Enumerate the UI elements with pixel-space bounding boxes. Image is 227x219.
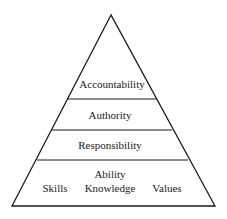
ability-component-skills: Skills (42, 182, 67, 194)
ability-component-values: Values (152, 182, 181, 194)
level-authority-label: Authority (89, 109, 132, 121)
ability-component-knowledge: Knowledge (85, 182, 136, 194)
level-ability-label: Ability (94, 168, 126, 180)
level-accountability-label: Accountability (79, 78, 145, 90)
level-responsibility-label: Responsibility (78, 139, 142, 151)
pyramid-diagram: Accountability Authority Responsibility … (0, 0, 227, 219)
